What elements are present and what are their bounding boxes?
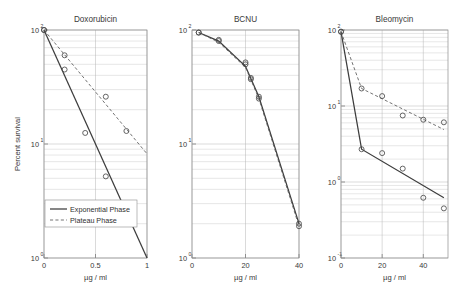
x-tick-label: 0 <box>339 261 343 270</box>
x-tick-label: 0.5 <box>90 261 100 270</box>
y-tick-label-exp: 1 <box>41 137 44 143</box>
y-tick-label-exp: 0 <box>189 251 192 257</box>
y-tick-label-exp: 0 <box>41 251 44 257</box>
survival-curves-figure: 10010110200.51Doxorubicinµg / mlPercent … <box>0 0 459 296</box>
y-tick-label-base: 10 <box>328 254 336 263</box>
x-tick-label: 0 <box>190 261 194 270</box>
y-tick-label-base: 10 <box>328 178 336 187</box>
y-tick-label-exp: 1 <box>338 99 341 105</box>
y-tick-label-exp: 0 <box>338 175 341 181</box>
y-tick-label-exp: 1 <box>189 137 192 143</box>
y-tick-label-base: 10 <box>179 140 187 149</box>
x-tick-label: 20 <box>378 261 386 270</box>
y-tick-label-exp: 2 <box>338 23 341 29</box>
x-tick-label: 40 <box>419 261 427 270</box>
x-tick-label: 0 <box>42 261 46 270</box>
figure-canvas: 10010110200.51Doxorubicinµg / mlPercent … <box>0 0 459 296</box>
x-axis-label: µg / ml <box>84 273 107 282</box>
y-tick-label-base: 10 <box>179 254 187 263</box>
y-tick-label-base: 10 <box>328 26 336 35</box>
y-tick-label-base: 10 <box>31 140 39 149</box>
figure-background <box>0 0 459 296</box>
y-tick-label-exp: 2 <box>189 23 192 29</box>
y-axis-label: Percent survival <box>13 117 22 171</box>
panel-title: Doxorubicin <box>74 15 118 24</box>
y-tick-label-base: 10 <box>328 102 336 111</box>
x-axis-label: µg / ml <box>383 273 406 282</box>
x-tick-label: 1 <box>145 261 149 270</box>
panel-title: Bleomycin <box>376 15 414 24</box>
x-tick-label: 20 <box>241 261 249 270</box>
y-tick-label-base: 10 <box>31 254 39 263</box>
x-tick-label: 40 <box>295 261 303 270</box>
legend-label-exponential: Exponential Phase <box>70 205 130 214</box>
y-tick-label-base: 10 <box>31 26 39 35</box>
x-axis-label: µg / ml <box>234 273 257 282</box>
y-tick-label-base: 10 <box>179 26 187 35</box>
legend: Exponential PhasePlateau Phase <box>45 200 137 227</box>
panel-title: BCNU <box>234 15 257 24</box>
legend-label-plateau: Plateau Phase <box>70 216 117 225</box>
y-tick-label-exp: -1 <box>338 251 343 257</box>
